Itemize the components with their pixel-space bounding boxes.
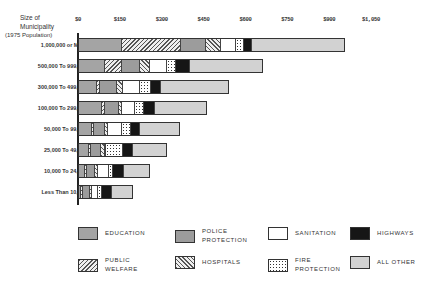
legend-item-hospitals: HOSPITALS — [175, 256, 257, 269]
stacked-bar — [78, 59, 263, 73]
bar-segment-highways — [113, 165, 124, 177]
bar-segment-highways — [151, 81, 161, 93]
legend-item-police: POLICE PROTECTION — [175, 227, 257, 245]
stacked-bar — [78, 185, 133, 199]
bar-segment-highways — [176, 60, 190, 72]
stacked-bar — [78, 101, 207, 115]
y-axis-title-line2: Municipality — [20, 22, 54, 31]
x-tick-label: $150 — [114, 16, 126, 23]
bar-segment-fire — [122, 123, 131, 135]
bar-segment-police — [91, 144, 101, 156]
y-axis-subtitle: (1975 Population) — [5, 32, 52, 38]
bar-segment-other — [161, 81, 228, 93]
bar-segment-other — [133, 144, 166, 156]
legend-label: EDUCATION — [105, 229, 160, 238]
bar-segment-police — [181, 39, 206, 51]
legend-label: HIGHWAYS — [377, 229, 432, 238]
legend-label: PUBLIC WELFARE — [105, 256, 160, 274]
legend-label: SANITATION — [295, 229, 350, 238]
bar-segment-other — [140, 123, 179, 135]
bar-segment-sanitation — [98, 165, 109, 177]
bar-segment-welfare — [105, 60, 122, 72]
legend-swatch-sanitation — [268, 227, 288, 240]
bar-segment-other — [112, 186, 132, 198]
legend-swatch-education — [78, 227, 98, 240]
bar-segment-education — [79, 60, 105, 72]
bar-segment-police — [122, 60, 140, 72]
bar-segment-police — [94, 123, 105, 135]
bar-segment-hospitals — [140, 60, 150, 72]
bar-segment-highways — [244, 39, 252, 51]
bar-segment-police — [83, 186, 90, 198]
bar-segment-education — [79, 123, 92, 135]
legend-item-sanitation: SANITATION — [268, 227, 350, 240]
legend-item-education: EDUCATION — [78, 227, 160, 240]
bar-segment-police — [87, 165, 95, 177]
x-tick-label: $600 — [239, 16, 251, 23]
bar-segment-sanitation — [221, 39, 236, 51]
x-tick-label: $300 — [156, 16, 168, 23]
stacked-bar — [78, 38, 345, 52]
bar-segment-sanitation — [108, 123, 122, 135]
stacked-bar — [78, 143, 167, 157]
bar-segment-other — [155, 102, 206, 114]
x-tick-label: $900 — [323, 16, 335, 23]
legend-label: HOSPITALS — [202, 258, 257, 267]
bar-segment-fire — [236, 39, 244, 51]
legend-label: FIRE PROTECTION — [295, 256, 350, 274]
bar-segment-education — [79, 102, 102, 114]
legend-swatch-fire — [268, 259, 288, 272]
bar-segment-education — [79, 39, 122, 51]
bar-segment-highways — [144, 102, 155, 114]
stacked-bar — [78, 122, 180, 136]
x-tick-label: $0 — [75, 16, 81, 23]
legend-item-other: ALL OTHER — [350, 256, 432, 269]
bar-segment-welfare — [122, 39, 181, 51]
legend-label: ALL OTHER — [377, 258, 432, 267]
legend-swatch-police — [175, 230, 195, 243]
bar-segment-education — [79, 81, 97, 93]
legend-swatch-hospitals — [175, 256, 195, 269]
bar-segment-education — [79, 144, 89, 156]
legend-item-welfare: PUBLIC WELFARE — [78, 256, 160, 274]
bar-segment-highways — [123, 144, 133, 156]
bar-segment-other — [190, 60, 262, 72]
bar-segment-fire — [167, 60, 176, 72]
bar-segment-sanitation — [150, 60, 167, 72]
bar-segment-police — [100, 81, 117, 93]
legend-swatch-highways — [350, 227, 370, 240]
bar-segment-police — [105, 102, 119, 114]
bar-segment-fire — [140, 81, 151, 93]
x-tick-label: $750 — [281, 16, 293, 23]
y-axis-title: Size of Municipality — [20, 13, 54, 31]
legend-item-highways: HIGHWAYS — [350, 227, 432, 240]
bar-segment-other — [124, 165, 149, 177]
y-axis-title-line1: Size of — [20, 13, 54, 22]
stacked-bar — [78, 80, 229, 94]
bar-segment-hospitals — [206, 39, 221, 51]
stacked-bar — [78, 164, 150, 178]
legend-item-fire: FIRE PROTECTION — [268, 256, 350, 274]
bar-segment-highways — [131, 123, 140, 135]
x-tick-label: $450 — [198, 16, 210, 23]
bar-segment-sanitation — [122, 102, 135, 114]
bar-segment-sanitation — [123, 81, 140, 93]
legend-swatch-other — [350, 256, 370, 269]
bar-segment-highways — [102, 186, 112, 198]
legend-label: POLICE PROTECTION — [202, 227, 257, 245]
bar-segment-other — [252, 39, 344, 51]
bar-segment-fire — [106, 144, 123, 156]
bar-segment-fire — [135, 102, 144, 114]
x-tick-label: $1,050 — [362, 16, 380, 23]
legend-swatch-welfare — [78, 259, 98, 272]
